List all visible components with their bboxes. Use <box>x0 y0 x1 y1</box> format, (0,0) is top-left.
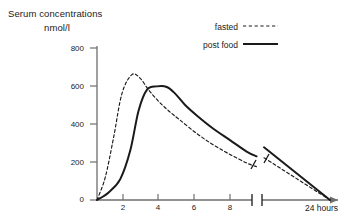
plot-area <box>0 0 356 220</box>
chart-figure: Serum concentrations nmol/l fasted post … <box>0 0 356 220</box>
series-line-post-food-tail <box>264 147 330 200</box>
series-line-post-food <box>97 86 257 200</box>
legend-swatches <box>243 26 278 44</box>
axes <box>90 46 338 206</box>
series-lines <box>97 74 330 200</box>
series-line-fasted <box>97 74 257 200</box>
series-line-fasted-tail <box>264 158 330 200</box>
x-axis-arrowhead <box>330 197 338 204</box>
